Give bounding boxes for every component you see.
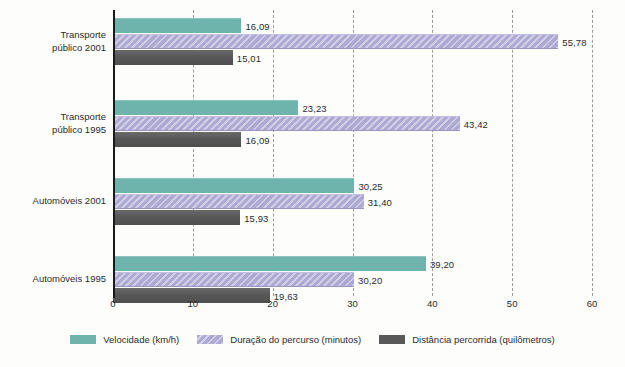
bar-distancia[interactable] xyxy=(113,132,241,147)
bar-group: 30,2531,4015,93 xyxy=(113,178,592,225)
bar-value-label: 55,78 xyxy=(562,36,586,47)
bar-value-label: 16,09 xyxy=(245,20,269,31)
x-tick-label-20: 20 xyxy=(267,298,278,309)
bar-group: 16,0955,7815,01 xyxy=(113,18,592,65)
category-label: Transporte público 2001 xyxy=(8,29,106,54)
bar-distancia[interactable] xyxy=(113,50,233,65)
bar-velocidade[interactable] xyxy=(113,100,298,115)
bar-row: 55,78 xyxy=(113,34,592,49)
legend-swatch-duracao-icon xyxy=(197,335,223,344)
legend-label: Distância percorrida (quilômetros) xyxy=(412,334,555,345)
bar-row: 30,25 xyxy=(113,178,592,193)
bar-row: 43,42 xyxy=(113,116,592,131)
legend-swatch-distancia-icon xyxy=(379,335,405,344)
bar-duracao[interactable] xyxy=(113,272,354,287)
bar-row: 16,09 xyxy=(113,132,592,147)
bar-value-label: 15,93 xyxy=(244,212,268,223)
bar-duracao[interactable] xyxy=(113,116,460,131)
category-label: Automóveis 1995 xyxy=(8,273,106,286)
x-tick-label-60: 60 xyxy=(587,298,598,309)
bar-value-label: 31,40 xyxy=(368,196,392,207)
bar-distancia[interactable] xyxy=(113,210,240,225)
legend-item-duracao[interactable]: Duração do percurso (minutos) xyxy=(197,334,361,345)
bar-value-label: 30,25 xyxy=(358,180,382,191)
legend-item-velocidade[interactable]: Velocidade (km/h) xyxy=(70,334,179,345)
bar-value-label: 43,42 xyxy=(464,118,488,129)
legend-swatch-velocidade-icon xyxy=(70,335,96,344)
bar-duracao[interactable] xyxy=(113,34,558,49)
bar-row: 23,23 xyxy=(113,100,592,115)
bar-duracao[interactable] xyxy=(113,194,364,209)
x-tick-label-10: 10 xyxy=(188,298,199,309)
plot-area: 16,0955,7815,0123,2343,4216,0930,2531,40… xyxy=(113,10,592,296)
bar-chart: 16,0955,7815,0123,2343,4216,0930,2531,40… xyxy=(0,0,625,367)
bar-row: 39,20 xyxy=(113,256,592,271)
category-label: Automóveis 2001 xyxy=(8,195,106,208)
legend-label: Velocidade (km/h) xyxy=(103,334,179,345)
bar-row: 31,40 xyxy=(113,194,592,209)
bar-row: 15,93 xyxy=(113,210,592,225)
x-tick-label-40: 40 xyxy=(427,298,438,309)
category-label: Transporte público 1995 xyxy=(8,111,106,136)
x-tick-label-50: 50 xyxy=(507,298,518,309)
bar-velocidade[interactable] xyxy=(113,18,241,33)
bar-value-label: 30,20 xyxy=(358,274,382,285)
bar-row: 30,20 xyxy=(113,272,592,287)
bar-row: 16,09 xyxy=(113,18,592,33)
legend-item-distancia[interactable]: Distância percorrida (quilômetros) xyxy=(379,334,555,345)
bar-velocidade[interactable] xyxy=(113,178,354,193)
bar-velocidade[interactable] xyxy=(113,256,426,271)
y-axis-line xyxy=(113,10,115,298)
x-axis: 0102030405060 xyxy=(113,296,592,312)
bar-value-label: 15,01 xyxy=(237,52,261,63)
bar-group: 23,2343,4216,09 xyxy=(113,100,592,147)
legend-label: Duração do percurso (minutos) xyxy=(230,334,361,345)
x-tick-label-0: 0 xyxy=(110,298,115,309)
bar-value-label: 16,09 xyxy=(245,134,269,145)
bar-value-label: 23,23 xyxy=(302,102,326,113)
gridline-60 xyxy=(592,10,593,296)
bar-row: 15,01 xyxy=(113,50,592,65)
x-tick-label-30: 30 xyxy=(347,298,358,309)
bar-value-label: 39,20 xyxy=(430,258,454,269)
chart-legend: Velocidade (km/h)Duração do percurso (mi… xyxy=(0,334,625,345)
